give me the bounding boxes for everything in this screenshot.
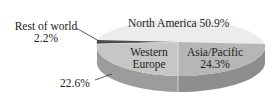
label-north-america: North America 50.9% xyxy=(128,17,229,29)
label-western-europe: Western Europe xyxy=(124,46,174,70)
label-asia-pacific: Asia/Pacific 24.3% xyxy=(180,46,250,70)
label-rest-of-world-name: Rest of world xyxy=(10,20,82,32)
label-rest-of-world: Rest of world 2.2% xyxy=(10,20,82,44)
label-asia-pacific-value: 24.3% xyxy=(180,58,250,70)
label-western-europe-line2: Europe xyxy=(124,58,174,70)
label-western-europe-line1: Western xyxy=(124,46,174,58)
label-asia-pacific-name: Asia/Pacific xyxy=(180,46,250,58)
label-rest-of-world-value: 2.2% xyxy=(10,32,82,44)
label-western-europe-value: 22.6% xyxy=(60,77,90,89)
